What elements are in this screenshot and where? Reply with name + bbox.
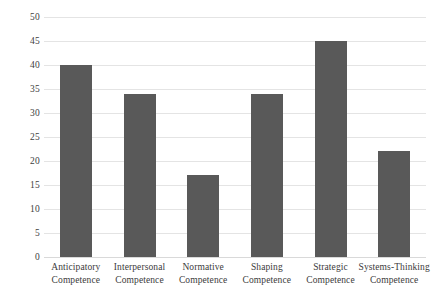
x-label-line: Competence <box>104 274 176 287</box>
bar-chart: 50454035302520151050 AnticipatoryCompete… <box>0 0 441 303</box>
gridline-0 <box>44 257 426 258</box>
x-label-line: Anticipatory <box>40 261 112 274</box>
bar-5 <box>378 151 410 257</box>
x-label-2: NormativeCompetence <box>167 261 239 286</box>
bar-2 <box>187 175 219 257</box>
y-tick-label-20: 20 <box>4 156 40 166</box>
x-label-line: Competence <box>40 274 112 287</box>
x-label-line: Competence <box>167 274 239 287</box>
x-label-line: Interpersonal <box>104 261 176 274</box>
bars-layer <box>44 17 426 257</box>
x-label-4: StrategicCompetence <box>295 261 367 286</box>
y-tick-label-45: 45 <box>4 36 40 46</box>
bar-4 <box>315 41 347 257</box>
y-tick-label-10: 10 <box>4 204 40 214</box>
y-axis-tick-labels: 50454035302520151050 <box>0 17 40 257</box>
y-tick-label-40: 40 <box>4 60 40 70</box>
x-label-line: Competence <box>231 274 303 287</box>
x-axis-category-labels: AnticipatoryCompetenceInterpersonalCompe… <box>44 261 426 301</box>
x-label-line: Systems-Thinking <box>358 261 430 274</box>
y-tick-label-5: 5 <box>4 228 40 238</box>
y-tick-label-15: 15 <box>4 180 40 190</box>
x-label-1: InterpersonalCompetence <box>104 261 176 286</box>
bar-0 <box>60 65 92 257</box>
bar-1 <box>124 94 156 257</box>
x-label-line: Shaping <box>231 261 303 274</box>
x-label-3: ShapingCompetence <box>231 261 303 286</box>
x-label-line: Competence <box>358 274 430 287</box>
y-tick-label-0: 0 <box>4 252 40 262</box>
bar-3 <box>251 94 283 257</box>
y-tick-label-30: 30 <box>4 108 40 118</box>
x-label-line: Normative <box>167 261 239 274</box>
y-tick-label-35: 35 <box>4 84 40 94</box>
y-tick-label-50: 50 <box>4 12 40 22</box>
x-label-5: Systems-ThinkingCompetence <box>358 261 430 286</box>
y-tick-label-25: 25 <box>4 132 40 142</box>
x-label-line: Competence <box>295 274 367 287</box>
x-label-0: AnticipatoryCompetence <box>40 261 112 286</box>
x-label-line: Strategic <box>295 261 367 274</box>
